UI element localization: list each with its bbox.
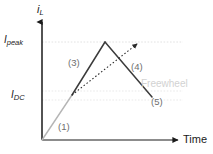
waveform-plot	[0, 0, 213, 154]
freewheel-annotation: Freewheel	[141, 79, 188, 89]
stage-label-3: (3)	[68, 58, 80, 68]
waveform-segment-1	[42, 95, 72, 140]
dotted-projection-line	[72, 44, 137, 95]
stage-label-4: (4)	[131, 62, 143, 72]
y-axis-label-subscript: L	[39, 8, 43, 17]
y-axis-label: iL	[37, 4, 44, 15]
stage-label-5: (5)	[151, 97, 163, 107]
y-tick-label-ipeak: Ipeak	[4, 35, 23, 45]
stage-label-1: (1)	[58, 122, 70, 132]
x-axis-label: Time	[183, 134, 207, 145]
y-tick-ipeak-subscript: peak	[7, 38, 23, 47]
y-tick-idc-subscript: DC	[14, 93, 25, 102]
waveform-segment-3	[72, 42, 105, 95]
inductor-current-figure: iL Ipeak IDC Time (1) (3) (4) (5) Freewh…	[0, 0, 213, 154]
y-tick-label-idc: IDC	[11, 90, 25, 100]
